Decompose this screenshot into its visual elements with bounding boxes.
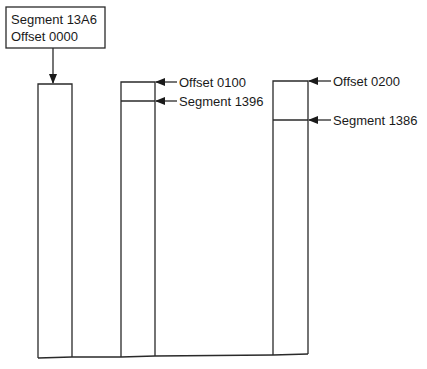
segment-block-1 <box>38 84 72 358</box>
baseline <box>38 354 308 358</box>
box3-offset-label: Offset 0200 <box>333 74 400 89</box>
callout-segment-label: Segment 13A6 <box>11 12 97 27</box>
segment-block-2 <box>121 82 155 357</box>
memory-segment-diagram: Segment 13A6 Offset 0000 Offset 0100 Seg… <box>0 0 427 369</box>
box2-segment-label: Segment 1396 <box>179 94 264 109</box>
callout-offset-label: Offset 0000 <box>11 29 78 44</box>
memory-columns <box>38 81 308 358</box>
box3-segment-label: Segment 1386 <box>333 113 418 128</box>
segment-block-3 <box>273 81 308 355</box>
callout-box: Segment 13A6 Offset 0000 <box>6 7 105 48</box>
box2-offset-label: Offset 0100 <box>179 75 246 90</box>
